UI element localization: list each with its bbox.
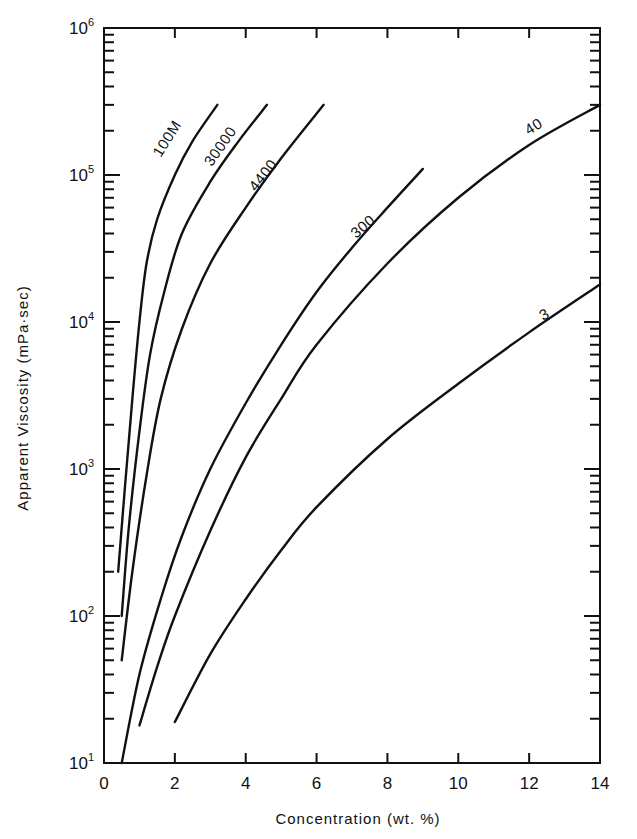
curve-label-40: 40 — [521, 114, 545, 138]
curve-40 — [139, 105, 600, 726]
plot-frame — [104, 28, 600, 763]
x-tick-label: 0 — [99, 774, 108, 793]
y-tick-label: 101 — [69, 751, 94, 773]
x-tick-label: 2 — [170, 774, 179, 793]
curve-label-300: 300 — [347, 211, 378, 241]
x-tick-label: 10 — [449, 774, 468, 793]
viscosity-chart: 101102103104105106 02468101214 100M30000… — [0, 0, 637, 839]
curve-label-4400: 4400 — [245, 156, 280, 194]
y-tick-label: 104 — [69, 310, 94, 332]
plot-border — [104, 28, 600, 763]
x-tick-label: 6 — [312, 774, 321, 793]
curve-label-100m: 100M — [149, 117, 184, 160]
curves — [118, 105, 600, 763]
curve-100m — [118, 105, 217, 572]
y-tick-label: 103 — [69, 457, 94, 479]
curve-3 — [175, 284, 600, 722]
y-tick-label: 106 — [69, 16, 94, 38]
x-axis-title: Concentration (wt. %) — [275, 810, 440, 827]
curve-labels: 100M300004400300403 — [149, 114, 552, 324]
y-tick-label: 102 — [69, 604, 94, 626]
x-tick-label: 14 — [591, 774, 610, 793]
y-axis-title: Apparent Viscosity (mPa·sec) — [14, 285, 31, 510]
x-tick-label: 12 — [520, 774, 539, 793]
x-tick-label: 4 — [241, 774, 250, 793]
curve-4400 — [122, 105, 324, 660]
curve-30000 — [122, 105, 267, 616]
curve-300 — [122, 169, 423, 763]
y-axis-ticks: 101102103104105106 — [69, 16, 600, 773]
x-tick-label: 8 — [383, 774, 392, 793]
y-tick-label: 105 — [69, 163, 94, 185]
curve-label-3: 3 — [536, 305, 552, 324]
